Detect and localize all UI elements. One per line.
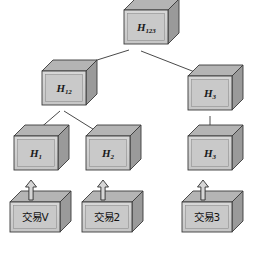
h1-inner-panel [18,140,55,167]
h3_lower-box [188,125,243,170]
h1-box [14,125,69,170]
h3_lower-inner-panel [192,140,229,167]
h3_upper-inner-panel [192,80,229,107]
h12-box [42,60,97,105]
tx2-box [82,191,143,232]
tx2-inner-panel [86,206,129,229]
h2-box [86,125,141,170]
boxes-group [10,0,243,232]
tx1-box [10,191,71,232]
h2-inner-panel [90,140,127,167]
diagram-canvas [0,0,254,258]
tx1-inner-panel [14,206,57,229]
h123-inner-panel [128,14,165,41]
merkle-tree-diagram: H123H12H3H1H2H3交易V交易2交易3 [0,0,254,258]
h12-inner-panel [46,75,83,102]
tx3-box [182,191,243,232]
tx3-inner-panel [186,206,229,229]
h3_upper-box [188,65,243,110]
h123-box [124,0,179,44]
